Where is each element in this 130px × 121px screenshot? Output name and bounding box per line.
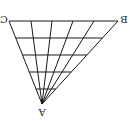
label-a: A bbox=[38, 107, 47, 118]
label-c: C bbox=[0, 14, 8, 25]
fan-lines bbox=[9, 21, 118, 104]
vertex-label-a: A bbox=[38, 107, 47, 118]
fan-line bbox=[9, 21, 42, 104]
vertex-label-c: C bbox=[0, 14, 8, 25]
horizontal-lines bbox=[9, 21, 118, 89]
fan-line bbox=[42, 21, 118, 104]
vertex-label-b: B bbox=[120, 14, 127, 25]
triangle-diagram: A B C bbox=[0, 0, 130, 121]
fan-line bbox=[31, 21, 42, 104]
label-b: B bbox=[120, 14, 127, 25]
